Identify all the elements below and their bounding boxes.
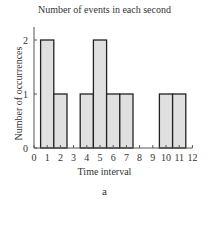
x-axis-label: Time interval — [0, 166, 209, 177]
x-tick-label: 6 — [111, 152, 116, 163]
x-tick-label: 2 — [58, 152, 63, 163]
x-tick-label: 8 — [137, 152, 142, 163]
x-tick-label: 5 — [98, 152, 103, 163]
x-tick-label: 11 — [174, 152, 184, 163]
histogram-bar — [120, 94, 133, 148]
y-tick-label: 0 — [23, 143, 28, 154]
x-tick-label: 9 — [150, 152, 155, 163]
histogram-bar — [107, 94, 120, 148]
histogram-bar — [159, 94, 172, 148]
histogram-bar — [80, 94, 93, 148]
x-tick-label: 1 — [45, 152, 50, 163]
histogram-bar — [93, 40, 106, 148]
x-tick-label: 12 — [187, 152, 197, 163]
x-tick-label: 3 — [71, 152, 76, 163]
histogram-bar — [173, 94, 186, 148]
x-tick-label: 7 — [124, 152, 129, 163]
x-tick-label: 10 — [161, 152, 171, 163]
histogram-bar — [41, 40, 54, 148]
x-tick-label: 4 — [84, 152, 89, 163]
x-tick-label: 0 — [32, 152, 37, 163]
y-tick-label: 2 — [23, 35, 28, 46]
histogram-bar — [54, 94, 67, 148]
y-tick-label: 1 — [23, 89, 28, 100]
panel-label: a — [0, 185, 209, 197]
